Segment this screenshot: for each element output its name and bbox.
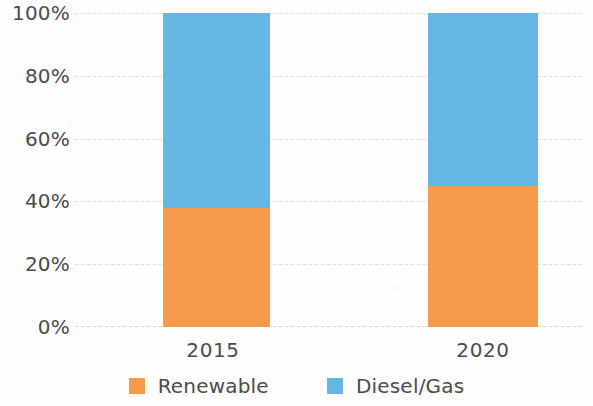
bar-segment-2020-renewable[interactable] <box>428 186 538 327</box>
y-axis-tick-label-20: 20% <box>0 252 70 276</box>
chart-legend: Renewable Diesel/Gas <box>0 374 593 398</box>
x-axis-tick-label-2020: 2020 <box>403 338 563 362</box>
y-axis-tick-label-80: 80% <box>0 64 70 88</box>
y-axis-tick-label-100: 100% <box>0 1 70 25</box>
bar-group-2020 <box>428 13 538 327</box>
bar-stack-2020 <box>428 13 538 327</box>
bar-stack-2015 <box>163 13 270 327</box>
x-axis-tick-label-2015: 2015 <box>133 338 293 362</box>
legend-item-diesel-gas[interactable]: Diesel/Gas <box>327 374 464 398</box>
legend-item-renewable[interactable]: Renewable <box>129 374 269 398</box>
legend-label-diesel-gas: Diesel/Gas <box>356 374 464 398</box>
legend-swatch-renewable-icon <box>129 378 145 394</box>
y-axis: 100% 80% 60% 40% 20% 0% <box>0 13 70 327</box>
bar-segment-2020-diesel-gas[interactable] <box>428 13 538 186</box>
y-axis-tick-label-0: 0% <box>0 315 70 339</box>
bar-segment-2015-renewable[interactable] <box>163 208 270 327</box>
plot-area <box>75 13 585 327</box>
legend-swatch-diesel-gas-icon <box>327 378 343 394</box>
y-axis-tick-label-40: 40% <box>0 189 70 213</box>
bar-group-2015 <box>163 13 270 327</box>
y-axis-tick-label-60: 60% <box>0 127 70 151</box>
legend-label-renewable: Renewable <box>158 374 269 398</box>
bar-segment-2015-diesel-gas[interactable] <box>163 13 270 208</box>
stacked-bar-chart: 100% 80% 60% 40% 20% 0% 2015 2020 <box>0 0 593 406</box>
